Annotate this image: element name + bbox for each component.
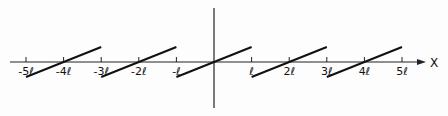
tick-label: 2ℓ xyxy=(283,65,295,78)
tick-label: -4ℓ xyxy=(56,65,72,78)
plot-area: X -5ℓ-4ℓ-3ℓ-2ℓ-ℓℓ2ℓ3ℓ4ℓ5ℓ xyxy=(0,0,448,116)
x-axis-label: X xyxy=(430,56,438,70)
tick-label: 5ℓ xyxy=(396,65,408,78)
tick-label: -2ℓ xyxy=(131,65,147,78)
x-axis-arrowhead xyxy=(417,59,426,65)
tick-label: 4ℓ xyxy=(359,65,371,78)
sawtooth-diagram: X -5ℓ-4ℓ-3ℓ-2ℓ-ℓℓ2ℓ3ℓ4ℓ5ℓ xyxy=(0,0,448,116)
